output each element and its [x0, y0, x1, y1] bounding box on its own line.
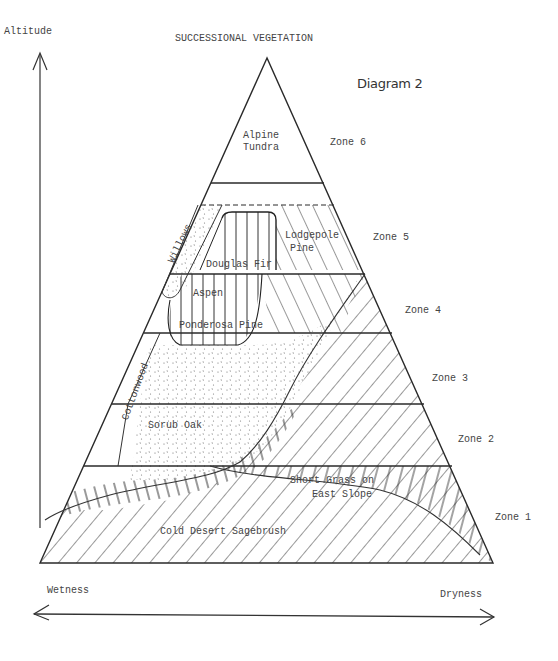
vegetation-diagram: [0, 0, 558, 661]
sagebrush-label: Cold Desert Sagebrush: [160, 526, 286, 538]
wetness-arrow-icon: [34, 605, 49, 620]
zone-3-label: Zone 3: [432, 373, 468, 385]
zone-1-label: Zone 1: [495, 512, 531, 524]
zone-6-label: Zone 6: [330, 137, 366, 149]
moisture-axis: [34, 614, 494, 617]
aspen-label: Aspen: [193, 288, 223, 300]
diagram-title: SUCCESSIONAL VEGETATION: [175, 33, 313, 45]
diagram-number-label: Diagram 2: [357, 77, 423, 92]
lodgepole-pine-label: Lodgepole Pine: [285, 229, 339, 255]
alpine-tundra-label: Alpine Tundra: [243, 130, 279, 153]
douglas-fir-label: Douglas Fir: [206, 259, 272, 271]
altitude-label: Altitude: [4, 26, 52, 38]
zone-4-label: Zone 4: [405, 305, 441, 317]
short-grass-label: Short Grass on East Slope: [290, 474, 374, 501]
zone-5-label: Zone 5: [373, 232, 409, 244]
ponderosa-pine-label: Ponderosa Pine: [179, 320, 263, 332]
wetness-label: Wetness: [47, 585, 89, 597]
zone-2-label: Zone 2: [458, 434, 494, 446]
dryness-label: Dryness: [440, 589, 482, 601]
scrub-oak-label: Sorub Oak: [148, 420, 202, 432]
